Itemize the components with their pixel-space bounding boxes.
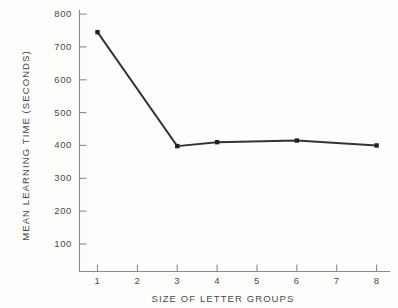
data-point-marker (295, 138, 299, 142)
data-point-marker (374, 143, 378, 147)
data-point-marker (215, 140, 219, 144)
x-tick-label-3: 3 (167, 275, 187, 286)
x-axis-title: SIZE OF LETTER GROUPS (0, 293, 398, 304)
y-tick-label-200: 200 (32, 205, 72, 216)
y-tick-label-500: 500 (32, 107, 72, 118)
x-tick-label-8: 8 (367, 275, 387, 286)
data-point-marker (95, 30, 99, 34)
y-tick-label-800: 800 (32, 8, 72, 19)
x-axis-ticks (98, 265, 377, 272)
x-tick-label-1: 1 (88, 275, 108, 286)
x-tick-label-4: 4 (207, 275, 227, 286)
x-tick-label-7: 7 (327, 275, 347, 286)
x-tick-label-5: 5 (247, 275, 267, 286)
y-tick-label-700: 700 (32, 41, 72, 52)
y-tick-label-300: 300 (32, 172, 72, 183)
x-tick-label-2: 2 (127, 275, 147, 286)
data-point-marker (175, 144, 179, 148)
y-tick-label-100: 100 (32, 238, 72, 249)
x-tick-label-6: 6 (287, 275, 307, 286)
y-axis-ticks (80, 14, 87, 244)
chart-figure: 800 700 600 500 400 300 200 100 1 2 3 4 … (0, 0, 398, 308)
y-tick-label-400: 400 (32, 139, 72, 150)
data-series-line (98, 32, 377, 146)
y-axis-title: MEAN LEARNING TIME (SECONDS) (20, 26, 31, 266)
y-tick-label-600: 600 (32, 74, 72, 85)
